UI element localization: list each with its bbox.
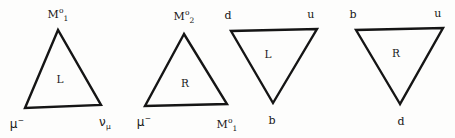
label-base: u [307, 8, 314, 21]
triangle-4-interior-label: R [392, 47, 400, 59]
label-base: b [268, 114, 275, 127]
label-base: μ [137, 115, 145, 129]
label-base: d [397, 115, 404, 128]
label-base: b [349, 8, 356, 21]
triangle-4-outline [356, 28, 443, 104]
label-base: M [173, 10, 184, 23]
triangle-1-vertex-label-left: μ− [10, 118, 24, 130]
triangle-3-vertex-label-left: d [224, 10, 231, 21]
label-base: d [224, 9, 231, 22]
triangle-2-vertex-label-right: Mo1 [216, 119, 237, 130]
label-subscript: 1 [64, 14, 69, 23]
triangle-3-interior-label: L [265, 48, 272, 60]
label-base: ν [99, 115, 106, 129]
triangle-3-outline [231, 29, 317, 103]
label-subscript: 2 [190, 16, 195, 25]
triangle-2-vertex-label-left: μ− [137, 116, 151, 128]
triangle-4-vertex-label-left: b [349, 9, 356, 20]
label-superscript: − [18, 116, 24, 125]
triangle-1-interior-label: L [57, 73, 64, 85]
label-base: μ [10, 117, 18, 131]
triangle-1-outline [25, 30, 101, 108]
label-subscript: 1 [233, 124, 238, 133]
triangle-4-vertex-label-right: u [434, 8, 441, 19]
triangle-4-vertex-label-apex: d [397, 116, 404, 127]
triangle-3-vertex-label-apex: b [268, 115, 275, 126]
label-base: u [434, 7, 441, 20]
label-superscript: − [145, 114, 151, 123]
triangle-2-outline [145, 34, 227, 106]
triangle-1-vertex-label-right: νμ [99, 116, 111, 128]
label-base: M [47, 8, 58, 21]
triangle-2-interior-label: R [181, 77, 189, 89]
triangle-1-vertex-label-apex: Mo1 [47, 9, 68, 20]
label-subscript: μ [106, 122, 111, 131]
triangle-diagram-figure: LMo1μ−νμRMo2μ−Mo1LdubRbud [0, 0, 455, 138]
triangle-3-vertex-label-right: u [307, 9, 314, 20]
label-base: M [216, 118, 227, 131]
triangle-2-vertex-label-apex: Mo2 [173, 11, 194, 22]
